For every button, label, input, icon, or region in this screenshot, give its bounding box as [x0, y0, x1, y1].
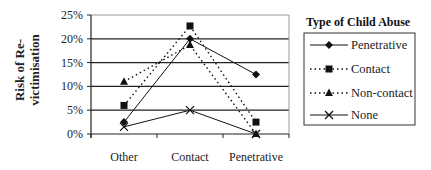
- y-tick-label: 5%: [67, 103, 83, 117]
- y-axis-label: Risk of Re-victimisation: [12, 33, 42, 105]
- legend-label: Contact: [351, 62, 390, 76]
- legend-title: Type of Child Abuse: [306, 15, 411, 29]
- x-tick-label: Penetrative: [229, 150, 283, 164]
- legend-label: Penetrative: [351, 38, 408, 52]
- square-marker: [326, 66, 333, 73]
- series-penetrative: [120, 35, 260, 126]
- y-axis-label-line: victimisation: [27, 33, 42, 105]
- y-tick-label: 25%: [61, 8, 83, 22]
- y-axis-label-line: Risk of Re-: [12, 39, 27, 101]
- triangle-marker: [120, 77, 128, 85]
- diamond-marker: [252, 71, 260, 79]
- y-tick-label: 15%: [61, 56, 83, 70]
- legend: Type of Child AbusePenetrativeContactNon…: [304, 15, 415, 125]
- square-marker: [121, 102, 128, 109]
- x-tick-label: Contact: [171, 150, 209, 164]
- series-lines: [120, 22, 260, 138]
- square-marker: [187, 22, 194, 29]
- x-tick-label: Other: [110, 150, 137, 164]
- y-axis-ticks: 0%5%10%15%20%25%: [61, 8, 83, 141]
- y-tick-label: 0%: [67, 127, 83, 141]
- y-tick-label: 20%: [61, 32, 83, 46]
- x-axis-ticks: OtherContactPenetrative: [91, 134, 289, 164]
- legend-label: Non-contact: [351, 86, 413, 100]
- legend-label: None: [351, 108, 379, 122]
- y-tick-label: 10%: [61, 79, 83, 93]
- line-chart: Risk of Re-victimisation 0%5%10%15%20%25…: [0, 0, 431, 170]
- square-marker: [253, 119, 260, 126]
